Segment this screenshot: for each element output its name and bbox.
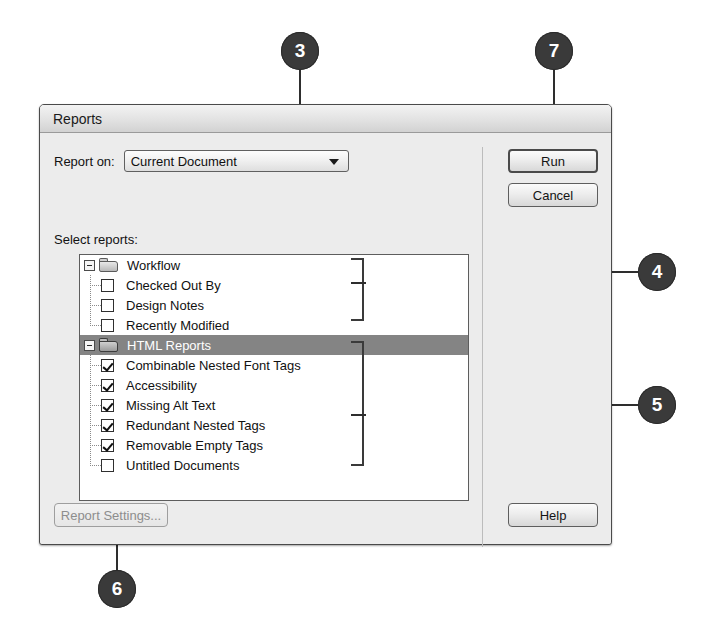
callout-3: 3 bbox=[281, 32, 319, 70]
tree-line bbox=[90, 365, 101, 366]
tree-item-label: Untitled Documents bbox=[126, 458, 239, 473]
cancel-button[interactable]: Cancel bbox=[508, 183, 598, 207]
dialog-title: Reports bbox=[53, 111, 102, 127]
callout-6-number: 6 bbox=[112, 578, 123, 600]
tree-line bbox=[90, 445, 101, 446]
report-settings-button[interactable]: Report Settings... bbox=[54, 503, 168, 527]
report-checkbox[interactable] bbox=[101, 419, 114, 432]
bracket-html-reports bbox=[351, 341, 364, 466]
tree-line bbox=[90, 285, 101, 286]
tree-line bbox=[90, 315, 91, 325]
reports-dialog: Reports Report on: Current Document Sele… bbox=[39, 104, 612, 545]
bracket-html-stem bbox=[351, 414, 366, 416]
report-checkbox[interactable] bbox=[101, 319, 114, 332]
report-on-row: Report on: Current Document bbox=[54, 150, 349, 172]
folder-icon bbox=[99, 258, 118, 272]
chevron-down-icon bbox=[329, 159, 339, 165]
collapse-icon[interactable] bbox=[84, 340, 95, 351]
callout-5: 5 bbox=[638, 386, 676, 424]
report-on-select[interactable]: Current Document bbox=[124, 150, 349, 172]
tree-item[interactable]: Accessibility bbox=[80, 375, 468, 395]
report-checkbox[interactable] bbox=[101, 459, 114, 472]
tree-item[interactable]: Missing Alt Text bbox=[80, 395, 468, 415]
report-on-label: Report on: bbox=[54, 154, 115, 169]
dialog-titlebar: Reports bbox=[40, 105, 611, 133]
tree-item[interactable]: Untitled Documents bbox=[80, 455, 468, 475]
tree-item[interactable]: Combinable Nested Font Tags bbox=[80, 355, 468, 375]
select-reports-label: Select reports: bbox=[54, 232, 138, 247]
tree-line bbox=[90, 385, 101, 386]
tree-line bbox=[90, 425, 101, 426]
report-checkbox[interactable] bbox=[101, 299, 114, 312]
tree-group-label: Workflow bbox=[127, 258, 180, 273]
tree-group[interactable]: HTML Reports bbox=[80, 335, 468, 355]
tree-line bbox=[90, 305, 101, 306]
tree-line bbox=[90, 455, 91, 465]
tree-item[interactable]: Design Notes bbox=[80, 295, 468, 315]
callout-4-number: 4 bbox=[652, 261, 663, 283]
callout-7-number: 7 bbox=[549, 40, 560, 62]
tree-item-label: Design Notes bbox=[126, 298, 204, 313]
tree-item-label: Removable Empty Tags bbox=[126, 438, 263, 453]
tree-item[interactable]: Recently Modified bbox=[80, 315, 468, 335]
report-checkbox[interactable] bbox=[101, 379, 114, 392]
dialog-body: Report on: Current Document Select repor… bbox=[40, 133, 611, 544]
callout-6: 6 bbox=[98, 570, 136, 608]
tree-line bbox=[90, 405, 101, 406]
tree-line bbox=[90, 325, 101, 326]
callout-3-number: 3 bbox=[295, 40, 306, 62]
run-button[interactable]: Run bbox=[508, 149, 598, 173]
bracket-workflow bbox=[351, 258, 364, 321]
tree-item-label: Recently Modified bbox=[126, 318, 229, 333]
report-checkbox[interactable] bbox=[101, 439, 114, 452]
collapse-icon[interactable] bbox=[84, 260, 95, 271]
tree-item-label: Accessibility bbox=[126, 378, 197, 393]
tree-line bbox=[90, 465, 101, 466]
tree-item-label: Missing Alt Text bbox=[126, 398, 215, 413]
help-button[interactable]: Help bbox=[508, 503, 598, 527]
tree-item-label: Redundant Nested Tags bbox=[126, 418, 265, 433]
tree-item[interactable]: Redundant Nested Tags bbox=[80, 415, 468, 435]
bracket-workflow-stem bbox=[351, 282, 366, 284]
panel-divider bbox=[482, 147, 483, 547]
folder-icon bbox=[99, 338, 118, 352]
report-checkbox[interactable] bbox=[101, 359, 114, 372]
callout-4: 4 bbox=[638, 253, 676, 291]
tree-item[interactable]: Removable Empty Tags bbox=[80, 435, 468, 455]
screenshot-stage: Reports Report on: Current Document Sele… bbox=[0, 0, 712, 642]
tree-group[interactable]: Workflow bbox=[80, 255, 468, 275]
reports-tree[interactable]: WorkflowChecked Out ByDesign NotesRecent… bbox=[79, 254, 469, 501]
tree-item-label: Checked Out By bbox=[126, 278, 221, 293]
report-on-value: Current Document bbox=[125, 154, 237, 169]
tree-group-label: HTML Reports bbox=[127, 338, 211, 353]
tree-item-label: Combinable Nested Font Tags bbox=[126, 358, 301, 373]
tree-item[interactable]: Checked Out By bbox=[80, 275, 468, 295]
callout-5-number: 5 bbox=[652, 394, 663, 416]
report-checkbox[interactable] bbox=[101, 279, 114, 292]
callout-7: 7 bbox=[535, 32, 573, 70]
report-checkbox[interactable] bbox=[101, 399, 114, 412]
